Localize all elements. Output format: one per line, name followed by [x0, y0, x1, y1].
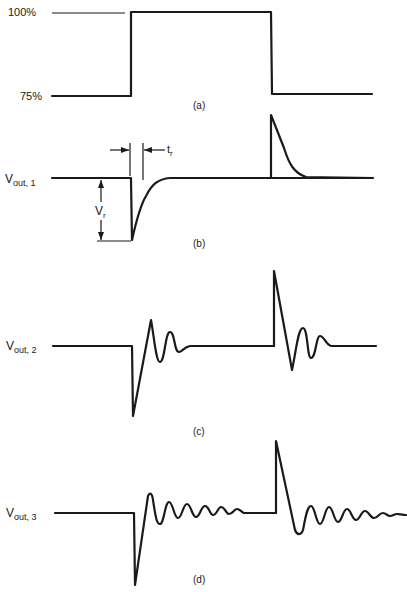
transient-response-diagram: 100% 75% (a) Vout, 1 tr Vr (b) Vout, 2 (… [0, 0, 407, 592]
tr-label: tr [167, 143, 173, 158]
label-100-percent: 100% [8, 6, 36, 18]
signal-label-vout2: Vout, 2 [6, 339, 37, 355]
caption-d: (d) [193, 574, 205, 585]
label-75-percent: 75% [20, 90, 42, 102]
panel-b: Vout, 1 tr Vr (b) [5, 115, 373, 249]
vout3-waveform [55, 494, 276, 585]
vout2-overshoot [274, 271, 376, 370]
vout1-overshoot [271, 115, 373, 178]
vr-arrow-top-head [98, 180, 104, 188]
panel-d: Vout, 3 (d) [6, 441, 406, 585]
signal-label-vout1: Vout, 1 [5, 172, 36, 188]
vout2-waveform [53, 320, 274, 416]
signal-label-vout3: Vout, 3 [6, 506, 37, 522]
caption-a: (a) [193, 100, 205, 111]
vout3-overshoot [276, 441, 406, 534]
panel-c: Vout, 2 (c) [6, 271, 376, 437]
step-waveform [52, 12, 372, 96]
panel-a: 100% 75% (a) [8, 6, 372, 111]
tr-arrow-left-head [121, 147, 129, 153]
caption-b: (b) [193, 238, 205, 249]
vr-arrow-bottom-head [98, 232, 104, 240]
caption-c: (c) [193, 426, 205, 437]
tr-arrow-right-head [144, 147, 152, 153]
